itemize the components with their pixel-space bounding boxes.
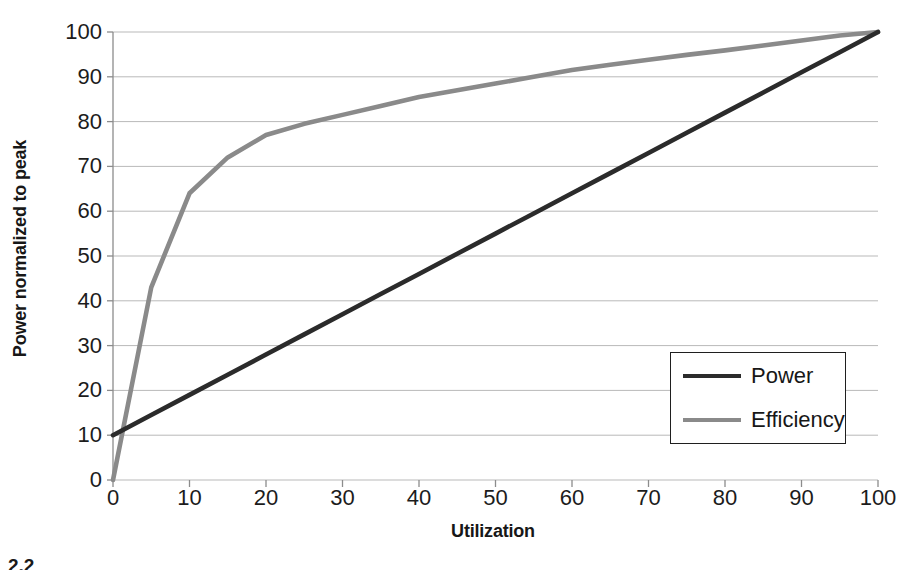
x-tick-label: 30 xyxy=(330,487,354,509)
x-tick-label: 40 xyxy=(407,487,431,509)
x-axis-title-container: Utilization xyxy=(108,521,878,542)
chart-figure: Power normalized to peak 0 10 20 30 40 5… xyxy=(0,0,913,570)
x-tick-label: 50 xyxy=(483,487,507,509)
x-tick-label: 10 xyxy=(177,487,201,509)
legend-label-power: Power xyxy=(751,365,813,387)
legend-swatch-power-icon xyxy=(683,374,741,378)
figure-caption: 2.2 xyxy=(8,556,34,570)
legend-item-power: Power xyxy=(671,353,845,399)
x-tick-label: 20 xyxy=(254,487,278,509)
x-tick-label: 80 xyxy=(713,487,737,509)
legend-swatch-efficiency-icon xyxy=(683,418,741,422)
chart-legend: Power Efficiency xyxy=(670,352,846,444)
x-tick-label: 90 xyxy=(789,487,813,509)
legend-label-efficiency: Efficiency xyxy=(751,409,845,431)
legend-item-efficiency: Efficiency xyxy=(671,397,845,443)
plot-area xyxy=(0,0,913,570)
x-tick-label: 0 xyxy=(107,487,119,509)
x-axis-title: Utilization xyxy=(451,521,535,541)
x-tick-label: 100 xyxy=(860,487,897,509)
y-axis-spine xyxy=(107,32,113,480)
x-tick-label: 60 xyxy=(560,487,584,509)
x-tick-label: 70 xyxy=(636,487,660,509)
